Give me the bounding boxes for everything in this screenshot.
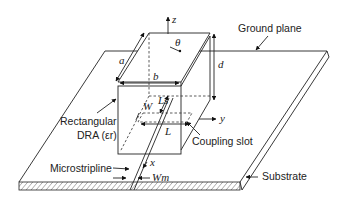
axis-x-label: x — [149, 156, 155, 168]
axis-z-label: z — [171, 13, 177, 25]
callout-ground-plane: Ground plane — [238, 22, 302, 50]
label-Wm: Wm — [152, 171, 169, 183]
axis-z: z — [168, 13, 177, 34]
dra-diagram: a b d W Ls L Wm z y x θ — [0, 0, 347, 202]
axis-y: y — [199, 112, 225, 124]
callout-rectangular-dra: Rectangular DRA (εr) — [60, 99, 117, 141]
label-microstripline: Microstripline — [50, 162, 112, 174]
callout-microstripline: Microstripline — [50, 162, 129, 174]
label-d: d — [218, 58, 224, 70]
label-substrate: Substrate — [262, 170, 307, 182]
label-rectangular: Rectangular — [60, 115, 117, 127]
label-dra-er: DRA (εr) — [77, 129, 117, 141]
label-b: b — [153, 70, 159, 82]
theta-label: θ — [175, 36, 181, 48]
callout-coupling-slot: Coupling slot — [187, 122, 253, 147]
axis-y-label: y — [219, 112, 225, 124]
label-coupling-slot: Coupling slot — [192, 135, 253, 147]
callout-substrate: Substrate — [246, 170, 307, 182]
label-Ls: Ls — [157, 94, 168, 106]
label-L: L — [164, 125, 171, 137]
axis-x: x — [143, 156, 155, 168]
label-a: a — [119, 54, 125, 66]
label-ground-plane: Ground plane — [238, 22, 302, 34]
label-W: W — [143, 100, 153, 112]
dimension-d: d — [214, 34, 224, 100]
